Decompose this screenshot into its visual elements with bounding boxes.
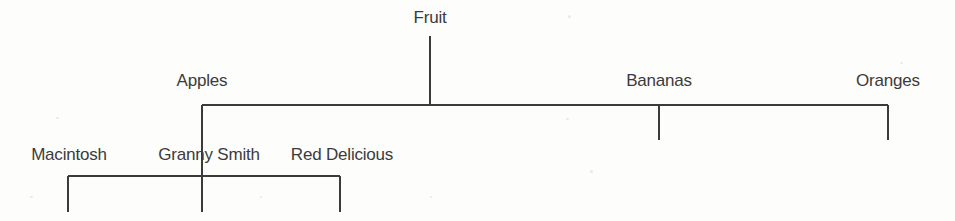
diagram-connector-lines	[0, 0, 955, 221]
node-label-bananas: Bananas	[626, 71, 692, 91]
node-label-granny-smith: Granny Smith	[158, 145, 260, 165]
node-label-oranges: Oranges	[856, 71, 920, 91]
node-label-fruit: Fruit	[413, 8, 446, 28]
fruit-hierarchy-diagram: Fruit Apples Bananas Oranges Macintosh G…	[0, 0, 955, 221]
node-label-macintosh: Macintosh	[31, 145, 107, 165]
node-label-red-delicious: Red Delicious	[291, 145, 393, 165]
node-label-apples: Apples	[177, 71, 228, 91]
